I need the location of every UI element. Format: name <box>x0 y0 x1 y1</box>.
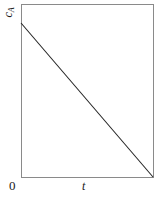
origin-tick-label: 0 <box>9 179 16 192</box>
x-axis-label: t <box>82 180 85 192</box>
y-axis-label-text: cA <box>1 0 16 29</box>
y-axis-label-symbol: c <box>1 12 15 17</box>
y-axis-label-subscript: A <box>7 7 16 12</box>
plot-canvas <box>0 0 163 199</box>
chart-figure: cA t 0 <box>0 0 163 199</box>
plot-frame-border <box>22 5 154 178</box>
y-axis-label: cA <box>0 0 16 26</box>
